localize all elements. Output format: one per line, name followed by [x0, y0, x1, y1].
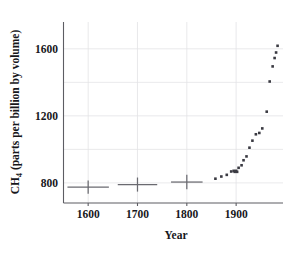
- errorbar-marker-1700: [118, 178, 157, 192]
- x-tick-label-1800: 1800: [175, 208, 198, 220]
- data-point: [268, 80, 271, 83]
- data-point: [236, 171, 239, 174]
- data-point: [273, 57, 276, 60]
- y-axis-title-rest: (parts per billion by volume): [9, 30, 22, 173]
- data-point: [225, 174, 228, 177]
- x-axis-title: Year: [165, 229, 188, 241]
- data-point: [275, 51, 278, 54]
- x-tick-labels-group: 1600170018001900: [77, 203, 248, 220]
- chart-figure: 1600170018001900 80012001600 Year CH4 (p…: [0, 0, 304, 259]
- errorbar-marker-1800: [171, 175, 203, 189]
- x-tick-label-1600: 1600: [77, 208, 100, 220]
- y-axis-title: CH4 (parts per billion by volume): [9, 30, 24, 195]
- data-point: [251, 139, 254, 142]
- data-point: [265, 110, 268, 113]
- data-point: [261, 127, 264, 130]
- data-point: [230, 170, 233, 173]
- x-tick-label-1900: 1900: [225, 208, 248, 220]
- x-tick-label-1700: 1700: [126, 208, 149, 220]
- data-point: [214, 177, 217, 180]
- errorbar-markers-group: [67, 175, 202, 194]
- svg-text:CH4 (parts per billion by volu: CH4 (parts per billion by volume): [9, 30, 24, 195]
- y-axis-title-main: CH: [9, 177, 21, 194]
- ch4-scatter-plot: 1600170018001900 80012001600 Year CH4 (p…: [0, 0, 304, 259]
- gridlines-group: [64, 22, 284, 203]
- y-tick-label-800: 800: [41, 177, 59, 189]
- data-point: [248, 146, 251, 149]
- data-point: [255, 133, 258, 136]
- data-point: [237, 167, 240, 170]
- data-point: [258, 132, 261, 135]
- data-point: [276, 45, 279, 48]
- errorbar-marker-1600: [67, 180, 108, 193]
- data-point: [240, 164, 243, 167]
- data-points-group: [214, 45, 279, 181]
- data-point: [220, 175, 223, 178]
- data-point: [242, 159, 245, 162]
- y-tick-label-1600: 1600: [35, 43, 58, 55]
- data-point: [245, 155, 248, 158]
- data-point: [271, 65, 274, 68]
- y-tick-label-1200: 1200: [35, 110, 58, 122]
- y-tick-labels-group: 80012001600: [35, 43, 58, 189]
